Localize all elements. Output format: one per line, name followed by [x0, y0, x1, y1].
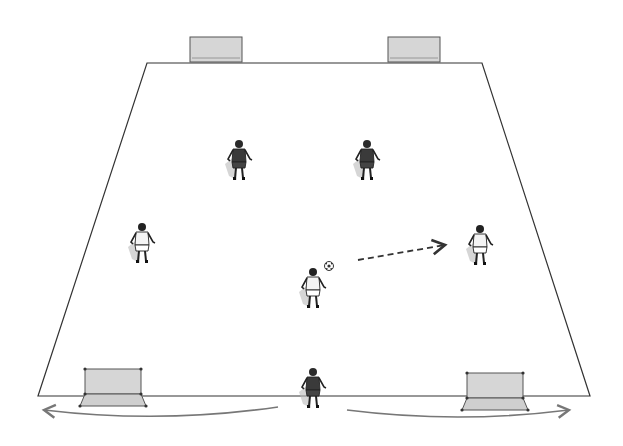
soccer-ball-icon — [325, 262, 334, 271]
top-left-goal — [190, 37, 242, 62]
field-boundary — [38, 63, 590, 396]
top-right-goal — [388, 37, 440, 62]
bottom-left-goal — [78, 367, 147, 407]
run-right-arrow — [347, 410, 569, 417]
ball — [325, 262, 334, 271]
drill-diagram — [0, 0, 623, 446]
field — [38, 63, 590, 396]
run-left-arrow — [44, 407, 278, 416]
bottom-right-goal — [460, 371, 529, 411]
